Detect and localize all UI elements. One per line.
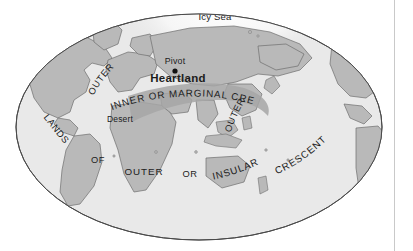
landmass-south-america-right [356,126,394,208]
island-dot [257,35,259,37]
label-icy-sea: Icy Sea [198,11,232,22]
right-margin-rule [394,0,395,251]
island-dot [265,149,268,152]
island-dot [155,151,158,154]
mackinder-heartland-map: Icy Sea Pivot Heartland Desert OUTER INN… [0,0,413,251]
island-dot [113,155,115,157]
island-dot [248,30,251,33]
label-outer-africa: OUTER [125,166,164,177]
landmass-philippines [242,116,252,130]
label-or: OR [182,169,197,179]
label-desert: Desert [107,114,134,124]
label-heartland: Heartland [150,72,206,84]
label-of: OF [91,155,105,165]
island-dot [195,151,198,154]
world-map-svg: Icy Sea Pivot Heartland Desert OUTER INN… [0,0,413,251]
label-pivot: Pivot [165,56,186,66]
landmass-greenland-right [388,24,410,48]
